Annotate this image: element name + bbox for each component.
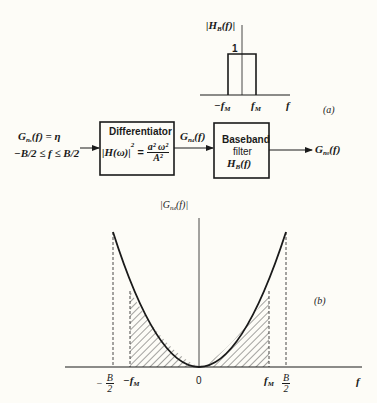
tick-zero: 0 xyxy=(196,376,202,386)
panel-a-tick-neg-fm: −fM xyxy=(214,100,231,113)
middle-label-tail: (f) xyxy=(194,130,205,142)
tick-neg-fm-sub: M xyxy=(133,380,139,388)
panel-a-tag: (a) xyxy=(323,105,335,115)
tick-pos-b-half: B 2 xyxy=(282,373,290,394)
input-spectrum-label: Gns(f) = η xyxy=(18,131,61,144)
panel-a-y-label: |HB(f)| xyxy=(206,20,235,33)
formula-denominator: A² xyxy=(147,153,170,163)
formula-exponent: 2 xyxy=(131,142,135,149)
differentiator-title: Differentiator xyxy=(109,127,172,137)
baseband-title: Baseband xyxy=(222,135,270,145)
passband-hatched-region xyxy=(130,291,269,367)
tick-pos-b-den: 2 xyxy=(282,384,290,394)
output-label-main: G xyxy=(315,143,323,155)
tick-neg-fm-main: −f xyxy=(123,374,133,386)
tick-pos-b-frac: B 2 xyxy=(282,373,290,394)
baseband-h-main: H xyxy=(227,157,236,169)
output-signal-label: Gn0(f) xyxy=(315,144,340,157)
panel-b-y-label-main: |G xyxy=(160,199,170,210)
panel-a-tick-fm-sub: M xyxy=(255,105,261,113)
panel-a-tick-fm: fM xyxy=(251,100,261,113)
formula-h-omega: |H(ω)| xyxy=(102,147,131,158)
output-label-tail: (f) xyxy=(329,143,340,155)
panel-a-y-label-tail: (f)| xyxy=(222,19,235,31)
panel-b-plot xyxy=(65,218,362,367)
differentiator-formula: |H(ω)|2= a² ω² A² xyxy=(102,142,169,163)
panel-a-x-label: f xyxy=(286,100,290,111)
tick-neg-fm: −fM xyxy=(123,375,140,388)
tick-neg-b-den: 2 xyxy=(106,384,114,394)
panel-b-x-label: f xyxy=(356,376,360,387)
input-label-tail: (f) = η xyxy=(32,130,61,142)
panel-a-plot xyxy=(200,25,290,95)
middle-label-main: G xyxy=(180,130,188,142)
baseband-filter-word: filter xyxy=(233,147,252,157)
panel-a-y-label-main: |H xyxy=(206,19,217,31)
tick-neg-b-frac: B 2 xyxy=(106,373,114,394)
panel-b-y-label-tail: (f)| xyxy=(176,199,188,210)
panel-b-tag: (b) xyxy=(314,296,326,306)
input-label-main: G xyxy=(18,130,26,142)
baseband-h-tail: (f) xyxy=(240,157,251,169)
panel-b-y-label: |Gn4(f)| xyxy=(160,200,188,212)
formula-fraction: a² ω² A² xyxy=(147,142,170,163)
panel-a-tick-neg-fm-main: −f xyxy=(214,99,224,111)
input-range-label: −B/2 ≤ f ≤ B/2 xyxy=(14,148,79,159)
panel-a-level-label: 1 xyxy=(232,44,238,54)
tick-neg-b-half: − B 2 xyxy=(96,373,114,394)
diagram-canvas xyxy=(0,0,377,403)
tick-neg-b-sign: − xyxy=(96,379,103,389)
middle-signal-label: Gn4(f) xyxy=(180,131,205,144)
baseband-transfer-fn: HB(f) xyxy=(227,158,251,171)
panel-a-tick-neg-fm-sub: M xyxy=(224,105,230,113)
tick-fm: fM xyxy=(264,375,274,388)
formula-equals: = xyxy=(137,147,143,158)
tick-fm-sub: M xyxy=(268,380,274,388)
